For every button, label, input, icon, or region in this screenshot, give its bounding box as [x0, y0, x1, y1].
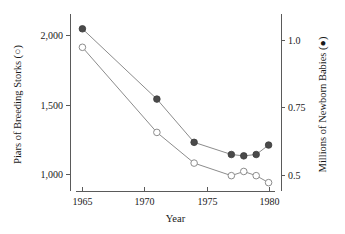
- x-axis-tick-label: 1970: [135, 196, 155, 207]
- series-storks: [79, 44, 272, 186]
- data-point: [191, 139, 198, 146]
- data-point: [240, 168, 247, 175]
- stork-birth-line-chart: 1,0001,5002,000Piars of Breeding Storks …: [0, 0, 345, 234]
- x-axis-tick-label: 1975: [198, 196, 218, 207]
- right-axis-tick-label: 1.0: [288, 35, 301, 46]
- data-point: [228, 151, 235, 158]
- data-point: [240, 153, 247, 160]
- left-axis-title: Piars of Breeding Storks (○): [12, 45, 24, 164]
- left-axis-tick-label: 1,500: [41, 100, 64, 111]
- data-point: [265, 142, 272, 149]
- series-line: [82, 29, 268, 156]
- data-point: [253, 172, 260, 179]
- series-line: [82, 47, 268, 182]
- data-point: [154, 96, 161, 103]
- data-point: [228, 172, 235, 179]
- x-axis-title: Year: [166, 213, 186, 224]
- right-axis-tick-label: 0.5: [288, 170, 301, 181]
- data-point: [265, 179, 272, 186]
- data-point: [79, 44, 86, 51]
- right-axis-tick-label: 0.75: [288, 102, 306, 113]
- x-axis-tick-label: 1980: [260, 196, 280, 207]
- data-point: [191, 160, 198, 167]
- data-point: [253, 151, 260, 158]
- left-axis-tick-label: 2,000: [41, 30, 64, 41]
- series-babies: [79, 26, 272, 160]
- data-point: [79, 26, 86, 33]
- left-axis-tick-label: 1,000: [41, 169, 64, 180]
- data-point: [154, 129, 161, 136]
- x-axis-tick-label: 1965: [73, 196, 93, 207]
- chart-figure: 1,0001,5002,000Piars of Breeding Storks …: [0, 0, 345, 234]
- right-axis-title: Millions of Newborn Babies (●): [317, 36, 329, 172]
